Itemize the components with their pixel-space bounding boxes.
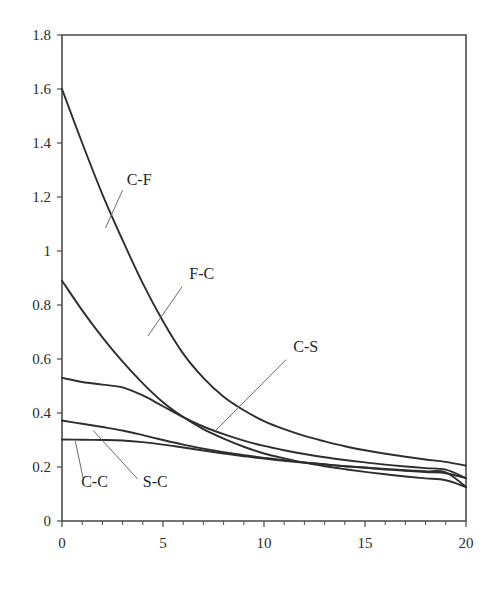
y-tick-label: 1.2 [32,189,51,205]
series-annotation-labels: C-FF-CC-SS-CC-C [81,171,318,490]
y-tick-label: 0.4 [32,405,51,421]
leader-c-s [216,360,287,431]
curve-c-f [62,89,466,466]
plot-border [62,35,466,521]
y-tick-label: 0.8 [32,297,51,313]
series-label-c-c: C-C [81,473,108,490]
chart-container: 00.20.40.60.811.21.41.61.8 05101520 C-FF… [0,0,502,600]
x-tick-label: 20 [459,535,474,551]
y-tick-label: 0 [44,513,52,529]
series-leader-lines [75,190,286,479]
series-label-c-f: C-F [127,171,152,188]
series-label-f-c: F-C [189,265,214,282]
y-tick-label: 1.6 [32,81,51,97]
x-tick-label: 15 [358,535,373,551]
plot-frame [62,35,466,521]
x-axis-ticks [62,521,466,527]
y-tick-label: 1 [44,243,52,259]
data-series-curves [62,89,466,487]
y-tick-label: 0.2 [32,459,51,475]
x-tick-label: 10 [257,535,272,551]
line-chart: 00.20.40.60.811.21.41.61.8 05101520 C-FF… [0,0,502,600]
x-tick-label: 5 [159,535,167,551]
leader-f-c [148,287,182,336]
series-label-c-s: C-S [293,338,318,355]
leader-s-c [93,431,137,480]
y-tick-label: 1.8 [32,27,51,43]
y-tick-label: 0.6 [32,351,51,367]
x-tick-label: 0 [58,535,66,551]
y-tick-label: 1.4 [32,135,51,151]
series-label-s-c: S-C [143,473,168,490]
x-axis-tick-labels: 05101520 [58,535,473,551]
y-axis-tick-labels: 00.20.40.60.811.21.41.61.8 [32,27,51,529]
